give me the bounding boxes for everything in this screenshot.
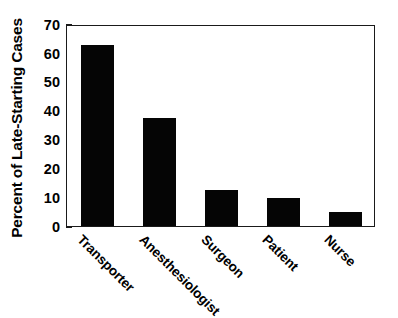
- bar: [329, 212, 362, 226]
- y-tick-label-text: 60: [44, 46, 66, 61]
- bar: [81, 45, 114, 226]
- x-tick-label-text: Nurse: [321, 232, 358, 269]
- y-tick-label-text: 0: [52, 219, 66, 234]
- bar: [143, 118, 176, 226]
- y-tick-label-text: 70: [44, 17, 66, 32]
- plot-area: [66, 25, 375, 227]
- y-tick-label-text: 30: [44, 133, 66, 148]
- y-axis-title: Percent of Late-Starting Cases: [4, 8, 30, 248]
- y-tick-label-text: 10: [44, 190, 66, 205]
- bar: [267, 198, 300, 226]
- y-tick-label-text: 40: [44, 104, 66, 119]
- x-tick-label-text: Patient: [260, 232, 302, 274]
- x-tick-label-text: Surgeon: [198, 232, 247, 281]
- y-tick-label-text: 50: [44, 75, 66, 90]
- bar: [205, 190, 238, 226]
- y-tick-label-text: 20: [44, 162, 66, 177]
- x-tick-label-text: Transporter: [74, 232, 137, 295]
